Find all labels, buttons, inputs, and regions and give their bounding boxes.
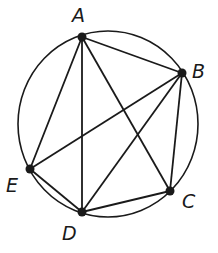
segment-de bbox=[30, 169, 82, 212]
label-d: D bbox=[62, 222, 77, 244]
geometry-diagram: ABCDE bbox=[0, 0, 218, 253]
point-d bbox=[78, 208, 87, 217]
point-e bbox=[26, 165, 35, 174]
label-c: C bbox=[182, 190, 196, 212]
segment-be bbox=[30, 73, 182, 169]
label-e: E bbox=[6, 174, 18, 196]
label-b: B bbox=[192, 60, 205, 82]
segment-ac bbox=[82, 37, 170, 191]
chords bbox=[30, 37, 182, 212]
vertices bbox=[26, 33, 187, 217]
segment-ab bbox=[82, 37, 182, 73]
point-b bbox=[178, 69, 187, 78]
vertex-labels: ABCDE bbox=[6, 4, 205, 244]
point-a bbox=[78, 33, 87, 42]
point-c bbox=[166, 187, 175, 196]
label-a: A bbox=[70, 4, 85, 26]
segment-ae bbox=[30, 37, 82, 169]
segment-bc bbox=[170, 73, 182, 191]
